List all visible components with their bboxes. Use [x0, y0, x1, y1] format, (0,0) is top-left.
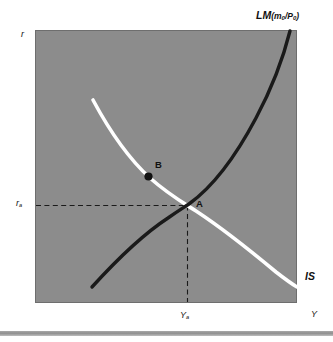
- lm-curve-label: LM(m0/P0): [256, 10, 299, 21]
- y-axis-label: r: [21, 30, 24, 39]
- x-axis-label: Y: [311, 310, 317, 319]
- is-curve-label: IS: [305, 271, 315, 282]
- plot-area: [35, 30, 297, 303]
- bottom-divider-rule: [0, 331, 333, 336]
- lm-label-main: LM: [256, 9, 271, 21]
- lm-label-close-paren: ): [296, 11, 299, 21]
- x-tick-subscript: a: [186, 314, 189, 320]
- lm-label-m: m: [274, 11, 282, 21]
- is-lm-figure: r ra Y Ya LM(m0/P0) IS A B: [0, 0, 333, 342]
- y-tick-label-ra: ra: [16, 199, 22, 209]
- point-a-label: A: [196, 199, 203, 209]
- y-tick-subscript: a: [19, 202, 22, 208]
- point-b-label: B: [155, 160, 162, 170]
- x-tick-label-ya: Ya: [180, 311, 189, 321]
